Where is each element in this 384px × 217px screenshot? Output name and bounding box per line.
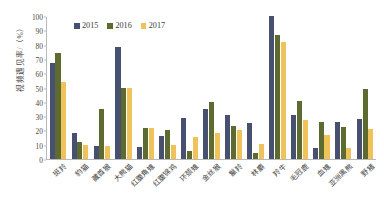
y-tick-mark — [44, 45, 47, 46]
y-tick-mark — [44, 31, 47, 32]
bar-group — [310, 17, 332, 159]
bar-2017 — [237, 130, 242, 159]
y-tick-mark — [44, 131, 47, 132]
bar-2016 — [363, 89, 368, 159]
x-tick-label: 亚洲黑熊 — [327, 161, 354, 188]
bar-2015 — [269, 16, 274, 159]
y-tick-label: 50 — [36, 84, 43, 93]
bar-2017 — [105, 146, 110, 159]
bar-2016 — [187, 151, 192, 159]
y-tick-mark — [44, 117, 47, 118]
bar-2017 — [346, 148, 351, 159]
bar-2015 — [357, 119, 362, 159]
bar-2017 — [303, 120, 308, 159]
bar-group — [244, 17, 266, 159]
y-axis-title: 视频遇见率/（%） — [14, 6, 25, 110]
y-tick-mark — [44, 160, 47, 161]
y-tick-mark — [44, 88, 47, 89]
bar-2015 — [94, 146, 99, 159]
bar-group — [223, 17, 245, 159]
bar-2016 — [99, 109, 104, 159]
bar-2017 — [215, 133, 220, 159]
bar-2016 — [253, 153, 258, 159]
bar-2016 — [231, 126, 236, 159]
bar-2017 — [259, 144, 264, 159]
y-tick-label: 10 — [36, 141, 43, 150]
x-tick-label: 红腹角雉 — [129, 161, 156, 188]
y-tick-mark — [44, 102, 47, 103]
bar-group — [47, 17, 69, 159]
x-tick-label: 环颈雉 — [178, 161, 200, 183]
y-tick-label: 20 — [36, 127, 43, 136]
x-axis-labels: 斑羚豹猫藏酋猴大熊猫红腹角雉红腹锦鸡环颈雉金丝猴鬣羚林麝羚牛毛冠鹿血雉亚洲黑熊野… — [47, 161, 377, 217]
x-tick-label: 红腹锦鸡 — [151, 161, 178, 188]
bar-group — [332, 17, 354, 159]
y-tick-label: 100 — [32, 13, 43, 22]
x-tick-label: 斑羚 — [51, 161, 68, 178]
bar-group — [201, 17, 223, 159]
y-tick-mark — [44, 59, 47, 60]
plot-area: 0102030405060708090100 — [46, 17, 376, 160]
bar-2015 — [313, 148, 318, 159]
bar-2017 — [281, 42, 286, 159]
x-tick-label: 藏酋猴 — [90, 161, 112, 183]
y-tick-label: 90 — [36, 27, 43, 36]
y-tick-mark — [44, 17, 47, 18]
bar-2015 — [159, 136, 164, 159]
bar-2016 — [319, 122, 324, 159]
x-tick-label: 金丝猴 — [200, 161, 222, 183]
y-tick-label: 80 — [36, 41, 43, 50]
bar-group — [157, 17, 179, 159]
bar-2015 — [247, 123, 252, 159]
bar-2016 — [341, 127, 346, 159]
x-axis-line — [46, 159, 376, 160]
bar-group — [288, 17, 310, 159]
bar-group — [354, 17, 376, 159]
y-tick-mark — [44, 74, 47, 75]
bar-2016 — [209, 102, 214, 159]
bar-group — [135, 17, 157, 159]
x-tick-label: 野猪 — [359, 161, 376, 178]
bar-group — [91, 17, 113, 159]
bar-2015 — [225, 115, 230, 159]
bar-2017 — [368, 129, 373, 159]
bar-2015 — [115, 47, 120, 159]
bar-groups — [47, 17, 376, 159]
bar-group — [113, 17, 135, 159]
bar-2016 — [121, 88, 126, 160]
bar-2017 — [127, 88, 132, 160]
x-tick-label: 鬣羚 — [227, 161, 244, 178]
bar-group — [69, 17, 91, 159]
x-tick-label: 豹猫 — [73, 161, 90, 178]
x-tick-label: 羚牛 — [271, 161, 288, 178]
y-tick-mark — [44, 145, 47, 146]
bar-2016 — [77, 142, 82, 159]
y-tick-label: 40 — [36, 98, 43, 107]
bar-2015 — [203, 109, 208, 159]
bar-2015 — [335, 122, 340, 159]
x-tick-label: 林麝 — [249, 161, 266, 178]
bar-chart: 视频遇见率/（%） 2015 2016 2017 010203040506070… — [0, 0, 384, 217]
bar-2016 — [55, 53, 60, 159]
bar-2017 — [324, 135, 329, 159]
bar-2016 — [165, 130, 170, 159]
bar-2016 — [297, 101, 302, 159]
bar-group — [179, 17, 201, 159]
y-tick-label: 60 — [36, 70, 43, 79]
y-tick-label: 70 — [36, 55, 43, 64]
bar-2017 — [61, 82, 66, 159]
bar-2017 — [83, 145, 88, 159]
bar-2017 — [171, 145, 176, 159]
bar-group — [266, 17, 288, 159]
bar-2015 — [181, 118, 186, 159]
y-tick-label: 0 — [39, 156, 43, 165]
bar-2015 — [72, 133, 77, 159]
bar-2016 — [143, 128, 148, 159]
bar-2015 — [291, 115, 296, 159]
bar-2017 — [149, 128, 154, 159]
bar-2017 — [193, 137, 198, 159]
y-tick-label: 30 — [36, 113, 43, 122]
bar-2016 — [275, 35, 280, 159]
bar-2015 — [50, 63, 55, 159]
x-tick-label: 血雉 — [315, 161, 332, 178]
